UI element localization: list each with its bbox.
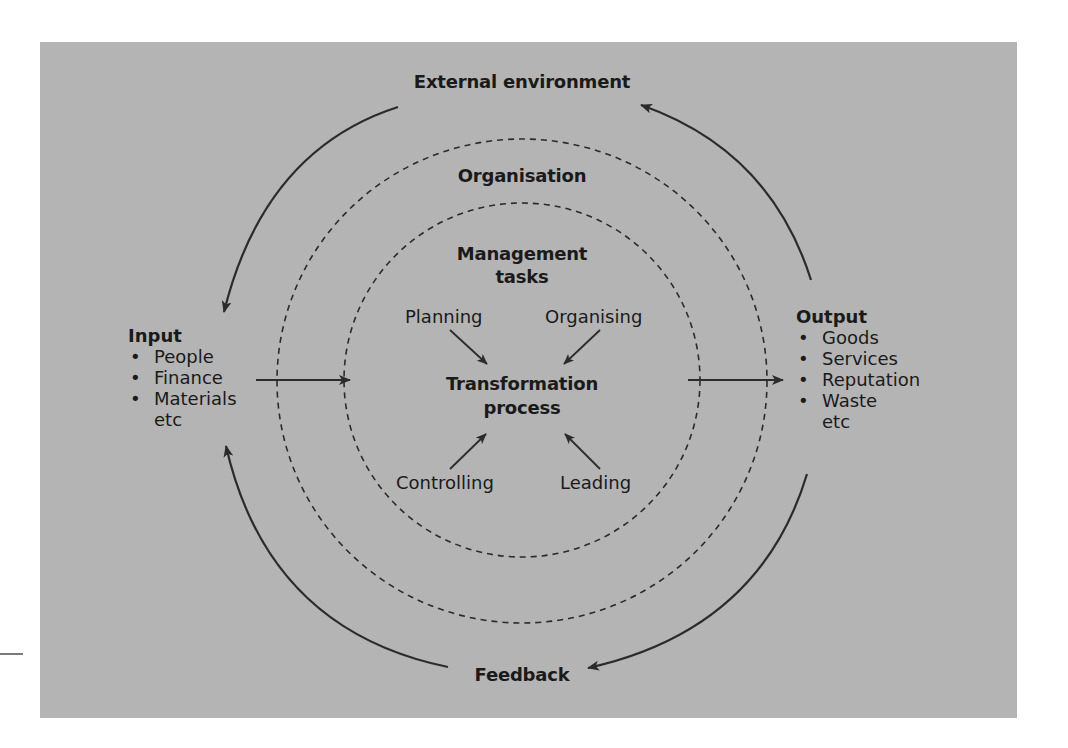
input-list: Input •People •Finance •Materials etc	[128, 325, 237, 430]
arrow-environment-to-input	[224, 107, 398, 312]
input-etc: etc	[128, 409, 237, 430]
task-controlling: Controlling	[396, 474, 494, 492]
arrow-planning	[450, 330, 487, 364]
feedback-label: Feedback	[475, 666, 570, 684]
input-item: •Materials	[128, 388, 237, 409]
input-title: Input	[128, 325, 237, 346]
output-title: Output	[796, 306, 920, 327]
management-tasks-label-line1: Management	[457, 245, 588, 263]
output-etc: etc	[796, 411, 920, 432]
management-tasks-label-line2: tasks	[495, 268, 548, 286]
external-environment-label: External environment	[414, 73, 630, 91]
transformation-label-line2: process	[483, 399, 560, 417]
organisation-label: Organisation	[458, 167, 587, 185]
output-item: •Goods	[796, 327, 920, 348]
arrow-output-to-environment	[641, 105, 811, 280]
task-leading: Leading	[560, 474, 631, 492]
arrow-controlling	[450, 434, 486, 469]
input-item: •Finance	[128, 367, 237, 388]
arrow-output-to-feedback	[588, 474, 807, 668]
output-item: •Waste	[796, 390, 920, 411]
output-list: Output •Goods •Services •Reputation •Was…	[796, 306, 920, 432]
output-item: •Services	[796, 348, 920, 369]
task-organising: Organising	[545, 308, 642, 326]
arrow-organising	[564, 330, 600, 364]
arrow-leading	[565, 434, 600, 469]
transformation-label-line1: Transformation	[446, 375, 598, 393]
output-item: •Reputation	[796, 369, 920, 390]
task-planning: Planning	[405, 308, 483, 326]
input-item: •People	[128, 346, 237, 367]
